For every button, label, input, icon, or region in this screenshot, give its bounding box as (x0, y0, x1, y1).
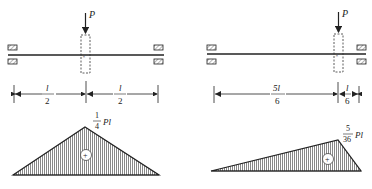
moment-num: 1 (95, 111, 99, 120)
svg-text:×: × (83, 54, 86, 59)
svg-text:+: + (325, 155, 330, 164)
dim-left-num: 5l (273, 83, 281, 93)
dim-right-num: l (346, 83, 349, 93)
moment-den: 4 (95, 122, 99, 131)
left-beam-diagram: × P l 2 l 2 + 1 4 Pl (8, 9, 164, 175)
dim-left-den: 2 (45, 96, 50, 106)
dim-right-den: 2 (118, 96, 123, 106)
load-label: P (341, 8, 348, 19)
diagram-canvas: × P l 2 l 2 + 1 4 Pl (0, 0, 372, 189)
dim-left-den: 6 (275, 96, 280, 106)
dim-right-den: 6 (345, 96, 350, 106)
svg-text:+: + (83, 151, 88, 160)
dim-right-num: l (119, 83, 122, 93)
moment-den: 36 (343, 135, 351, 144)
moment-suffix: Pl (102, 117, 111, 127)
moment-num: 5 (346, 124, 350, 133)
load-label: P (88, 9, 95, 20)
dim-left-num: l (46, 83, 49, 93)
dimension-line (14, 81, 158, 103)
dimension-line (214, 82, 359, 103)
svg-text:×: × (336, 53, 339, 58)
moment-suffix: Pl (354, 130, 363, 140)
moment-diagram (211, 140, 361, 171)
right-beam-diagram: × P 5l 6 l 6 + 5 36 Pl (207, 8, 366, 171)
